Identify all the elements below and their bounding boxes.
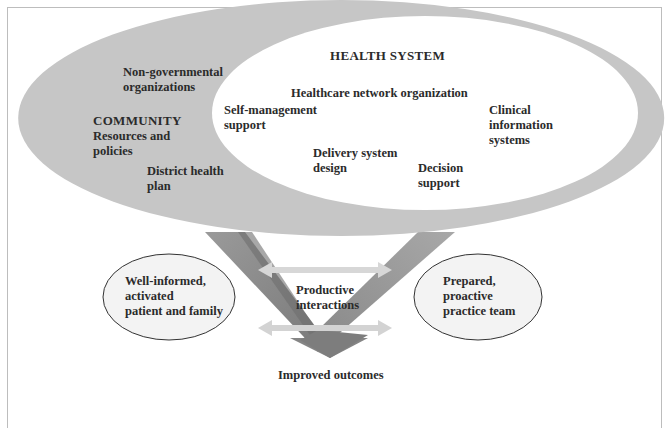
label-non-governmental-organizations: Non-governmental organizations	[123, 65, 223, 95]
label-productive-interactions: Productive interactions	[296, 283, 359, 313]
label-delivery-system-design: Delivery system design	[313, 146, 397, 176]
label-self-management-support: Self-management support	[224, 103, 317, 133]
label-improved-outcomes: Improved outcomes	[278, 368, 384, 383]
label-healthcare-network-organization: Healthcare network organization	[291, 86, 468, 101]
label-district-health-plan: District health plan	[147, 164, 224, 194]
label-clinical-information-systems: Clinical information systems	[489, 103, 553, 148]
label-practice-team: Prepared, proactive practice team	[443, 274, 516, 319]
label-decision-support: Decision support	[418, 161, 463, 191]
label-patient-and-family: Well-informed, activated patient and fam…	[125, 274, 223, 319]
label-resources-and-policies: Resources and policies	[93, 129, 170, 159]
health-system-title: HEALTH SYSTEM	[330, 48, 445, 63]
community-title: COMMUNITY	[93, 113, 182, 128]
